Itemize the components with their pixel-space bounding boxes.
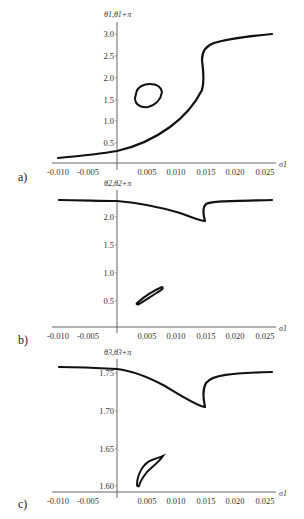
panel-c: θ3,θ3+π 1.75 1.70 1.65 1.60 -0.010 -0.00… — [18, 348, 287, 511]
y-axis-label-b: θ2,θ2+π — [104, 179, 132, 188]
x-tick-label: 0.010 — [166, 167, 185, 177]
main-branch-curve-b — [59, 200, 272, 221]
x-tick-label: 0.025 — [255, 167, 274, 177]
x-tick-label: 0.020 — [225, 496, 244, 506]
x-tick-label: 0.010 — [166, 331, 185, 341]
x-ticks-b: -0.010 -0.005 0.005 0.010 0.015 0.020 0.… — [47, 331, 275, 341]
figure: θ1,θ1+π 3.0 2.5 2.0 1.5 1.0 0.5 -0.010 -… — [0, 0, 304, 519]
panel-label-a: a) — [18, 170, 27, 184]
x-tick-label: 0.005 — [137, 331, 156, 341]
x-axis-label-b: σ1 — [279, 324, 287, 333]
x-tick-label: 0.005 — [137, 496, 156, 506]
y-tick-label: 3.0 — [103, 29, 114, 39]
x-axis-label-c: σ1 — [279, 489, 287, 498]
y-tick-label: 1.0 — [103, 116, 114, 126]
x-tick-label: -0.005 — [77, 496, 99, 506]
x-tick-label: 0.020 — [225, 167, 244, 177]
x-tick-label: -0.010 — [47, 496, 69, 506]
isolated-loop-c — [137, 456, 163, 486]
x-tick-label: 0.020 — [225, 331, 244, 341]
x-tick-label: 0.025 — [255, 496, 274, 506]
x-tick-label: 0.010 — [166, 496, 185, 506]
panel-label-c: c) — [18, 497, 27, 511]
y-axis-label-c: θ3,θ3+π — [104, 348, 132, 357]
y-tick-label: 1.0 — [103, 268, 114, 278]
x-tick-label: -0.005 — [77, 167, 99, 177]
isolated-loop-a — [135, 84, 162, 107]
x-ticks-c: -0.010 -0.005 0.005 0.010 0.015 0.020 0.… — [47, 496, 275, 506]
main-branch-curve-c — [59, 367, 272, 407]
x-tick-label: 0.015 — [196, 496, 215, 506]
y-tick-label: 2.0 — [103, 73, 114, 83]
y-tick-label: 0.5 — [103, 296, 114, 306]
y-tick-label: 2.5 — [103, 51, 114, 61]
x-tick-label: 0.015 — [196, 167, 215, 177]
x-tick-label: 0.015 — [196, 331, 215, 341]
isolated-loop-b — [137, 287, 163, 304]
panel-label-b: b) — [18, 333, 28, 347]
y-tick-label: 0.5 — [103, 138, 114, 148]
y-tick-label: 2.0 — [103, 212, 114, 222]
y-tick-label: 1.5 — [103, 240, 114, 250]
y-ticks-b: 2.0 1.5 1.0 0.5 — [103, 212, 117, 306]
y-axis-label-a: θ1,θ1+π — [104, 10, 132, 19]
y-tick-label: 1.70 — [99, 406, 114, 416]
x-ticks-a: -0.010 -0.005 0.005 0.010 0.015 0.020 0.… — [47, 167, 275, 177]
panel-a: θ1,θ1+π 3.0 2.5 2.0 1.5 1.0 0.5 -0.010 -… — [18, 10, 287, 184]
y-tick-label: 1.5 — [103, 95, 114, 105]
panel-b: θ2,θ2+π 2.0 1.5 1.0 0.5 -0.010 -0.005 0.… — [18, 179, 287, 347]
x-tick-label: -0.010 — [47, 331, 69, 341]
x-tick-label: 0.005 — [137, 167, 156, 177]
x-tick-label: -0.010 — [47, 167, 69, 177]
y-tick-label: 1.65 — [99, 444, 114, 454]
x-axis-label-a: σ1 — [279, 160, 287, 169]
x-tick-label: 0.025 — [255, 331, 274, 341]
y-ticks-c: 1.75 1.70 1.65 1.60 — [99, 368, 117, 491]
x-tick-label: -0.005 — [77, 331, 99, 341]
y-ticks-a: 3.0 2.5 2.0 1.5 1.0 0.5 — [103, 29, 117, 148]
main-branch-curve-a — [58, 34, 272, 158]
y-tick-label: 1.60 — [99, 481, 114, 491]
